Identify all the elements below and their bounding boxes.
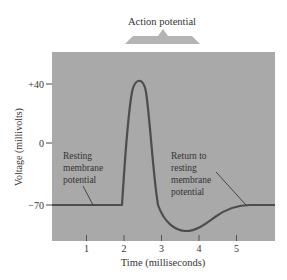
- annotation-resting-line: Resting: [63, 151, 92, 161]
- x-axis-label: Time (milliseconds): [121, 257, 206, 269]
- annotation-return-line: Return to: [171, 151, 207, 161]
- x-tick-label: 3: [159, 243, 164, 254]
- y-axis: [46, 84, 52, 205]
- action-potential-spike-icon: [125, 29, 200, 44]
- x-tick-label: 5: [234, 243, 239, 254]
- y-tick-label: +40: [28, 79, 44, 90]
- y-axis-label: Voltage (millivolts): [13, 108, 25, 186]
- annotation-resting-line: membrane: [63, 163, 103, 173]
- annotation-return-line: resting: [171, 163, 197, 173]
- chart-title: Action potential: [128, 16, 196, 27]
- action-potential-chart: Action potential +40 0 −70 Voltage (mill…: [0, 0, 287, 280]
- annotation-resting-line: potential: [63, 175, 97, 185]
- y-tick-label: −70: [28, 200, 44, 211]
- y-tick-label: 0: [39, 138, 44, 149]
- annotation-return-line: potential: [171, 187, 205, 197]
- x-tick-label: 4: [197, 243, 202, 254]
- annotation-return-line: membrane: [171, 175, 211, 185]
- plot-area: [52, 52, 275, 241]
- x-tick-label: 1: [84, 243, 89, 254]
- x-tick-label: 2: [122, 243, 127, 254]
